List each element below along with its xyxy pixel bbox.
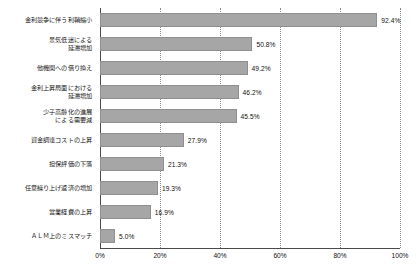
bar-row: 金利上昇局面における 延滞増加46.2% bbox=[0, 85, 420, 99]
bar-value-label: 16.9% bbox=[155, 209, 174, 216]
bar bbox=[100, 181, 158, 195]
category-label: 景気低迷による 延滞増加 bbox=[0, 36, 96, 53]
bar-row: 少子高齢化の進展 による需要減45.5% bbox=[0, 109, 420, 123]
category-label: 金利上昇局面における 延滞増加 bbox=[0, 84, 96, 101]
bar bbox=[100, 13, 377, 27]
bar bbox=[100, 85, 239, 99]
bar bbox=[100, 205, 151, 219]
bar-container: 92.4% bbox=[100, 13, 400, 27]
bar-value-label: 27.9% bbox=[188, 137, 207, 144]
bar bbox=[100, 61, 248, 75]
category-label: 金利競争に伴う利鞘縮小 bbox=[0, 16, 96, 24]
x-tick-label: 0% bbox=[95, 252, 105, 259]
bar bbox=[100, 109, 237, 123]
x-tick-label: 60% bbox=[273, 252, 286, 259]
bar-container: 49.2% bbox=[100, 61, 400, 75]
category-label: 営業経費の上昇 bbox=[0, 208, 96, 216]
bar-container: 27.9% bbox=[100, 133, 400, 147]
category-label: 少子高齢化の進展 による需要減 bbox=[0, 108, 96, 125]
bar-container: 19.3% bbox=[100, 181, 400, 195]
bar-value-label: 49.2% bbox=[252, 65, 271, 72]
bar-rows: 金利競争に伴う利鞘縮小92.4%景気低迷による 延滞増加50.8%他機関への借り… bbox=[0, 8, 420, 248]
bar-value-label: 92.4% bbox=[381, 17, 400, 24]
bar bbox=[100, 157, 164, 171]
bar-value-label: 45.5% bbox=[241, 113, 260, 120]
bar-container: 46.2% bbox=[100, 85, 400, 99]
bar-value-label: 21.3% bbox=[168, 161, 187, 168]
category-label: 他機関への借り換え bbox=[0, 64, 96, 72]
bar-container: 50.8% bbox=[100, 37, 400, 51]
category-label: 任意繰り上げ返済の増加 bbox=[0, 184, 96, 192]
bar-row: 資金調達コストの上昇27.9% bbox=[0, 133, 420, 147]
bar-row: 金利競争に伴う利鞘縮小92.4% bbox=[0, 13, 420, 27]
bar-value-label: 19.3% bbox=[162, 185, 181, 192]
bar-value-label: 46.2% bbox=[243, 89, 262, 96]
bar-container: 16.9% bbox=[100, 205, 400, 219]
bar-value-label: 5.0% bbox=[119, 233, 134, 240]
horizontal-bar-chart: 金利競争に伴う利鞘縮小92.4%景気低迷による 延滞増加50.8%他機関への借り… bbox=[0, 0, 420, 274]
bar bbox=[100, 133, 184, 147]
bar-row: 景気低迷による 延滞増加50.8% bbox=[0, 37, 420, 51]
bar-container: 45.5% bbox=[100, 109, 400, 123]
bar-row: 任意繰り上げ返済の増加19.3% bbox=[0, 181, 420, 195]
x-tick-label: 40% bbox=[213, 252, 226, 259]
bar-row: ＡＬＭ上のミスマッチ5.0% bbox=[0, 229, 420, 243]
x-axis-line bbox=[100, 248, 400, 249]
bar bbox=[100, 37, 252, 51]
category-label: ＡＬＭ上のミスマッチ bbox=[0, 232, 96, 240]
x-tick-label: 100% bbox=[392, 252, 409, 259]
bar-container: 21.3% bbox=[100, 157, 400, 171]
category-label: 資金調達コストの上昇 bbox=[0, 136, 96, 144]
bar-row: 担保評価の下落21.3% bbox=[0, 157, 420, 171]
category-label: 担保評価の下落 bbox=[0, 160, 96, 168]
bar-value-label: 50.8% bbox=[256, 41, 275, 48]
x-axis-ticks: 0%20%40%60%80%100% bbox=[100, 252, 400, 268]
bar-row: 他機関への借り換え49.2% bbox=[0, 61, 420, 75]
bar-container: 5.0% bbox=[100, 229, 400, 243]
bar-row: 営業経費の上昇16.9% bbox=[0, 205, 420, 219]
bar bbox=[100, 229, 115, 243]
x-tick-label: 20% bbox=[153, 252, 166, 259]
x-tick-label: 80% bbox=[333, 252, 346, 259]
